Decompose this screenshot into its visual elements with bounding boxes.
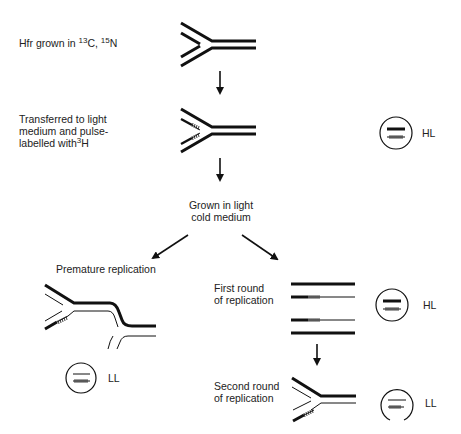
density-label-ll-1: LL xyxy=(108,372,120,384)
step1-label: Hfr grown in 13C, 15N xyxy=(19,37,117,49)
density-gradient-hl-1 xyxy=(380,117,412,149)
fork-heavy xyxy=(181,23,256,66)
density-label-hl-2: HL xyxy=(423,299,436,311)
arrow-down-left-icon xyxy=(153,235,188,258)
density-gradient-hl-2 xyxy=(376,289,408,321)
premature-replication-label: Premature replication xyxy=(56,263,156,275)
density-gradient-ll-2 xyxy=(381,390,413,420)
first-round-label: First round of replication xyxy=(214,282,274,306)
density-label-ll-2: LL xyxy=(425,397,437,409)
fork-premature-replication xyxy=(45,285,156,349)
arrow-down-right-icon xyxy=(242,235,277,259)
density-label-hl-1: HL xyxy=(422,127,435,139)
second-round-label: Second round of replication xyxy=(214,380,279,404)
step3-label: Grown in light cold medium xyxy=(186,199,256,223)
fork-second-round xyxy=(292,378,356,421)
density-gradient-ll-1 xyxy=(66,363,96,393)
first-round-duplexes xyxy=(291,284,355,333)
step2-label: Transferred to light medium and pulse- l… xyxy=(19,113,108,149)
fork-pulse-labelled xyxy=(181,109,256,152)
